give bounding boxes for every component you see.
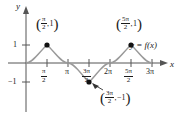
x-tick-label-3pi-over-2: 3π 2 bbox=[82, 67, 91, 84]
point-max-2-denominator: 2 bbox=[121, 24, 130, 31]
point-min-1-denominator: 2 bbox=[105, 98, 114, 105]
point-label-max-1: (π2,1) bbox=[36, 16, 59, 32]
x-tick-label-pi-over-2: π 2 bbox=[41, 67, 47, 84]
x-tick-pi-over-2-denominator: 2 bbox=[41, 77, 47, 84]
x-tick-label-5pi-over-2: 5π 2 bbox=[124, 67, 133, 84]
x-tick-label-pi: π bbox=[65, 68, 69, 76]
plot-canvas bbox=[0, 0, 180, 116]
x-tick-5pi-over-2-denominator: 2 bbox=[124, 77, 133, 84]
x-tick-label-2pi: 2π bbox=[104, 68, 112, 76]
sine-curve-figure: y x 1 −1 π 2 π 3π 2 2π 5π 2 3π (π2,1) (5… bbox=[0, 0, 180, 116]
y-tick-label-neg1: −1 bbox=[8, 78, 17, 86]
x-axis-label: x bbox=[170, 60, 174, 69]
close-paren-max-2: ) bbox=[137, 16, 142, 32]
function-label: y = f(x) bbox=[130, 41, 157, 50]
close-paren-min-1: ) bbox=[126, 90, 131, 106]
x-tick-3pi-over-2-denominator: 2 bbox=[82, 77, 91, 84]
y-axis bbox=[23, 6, 29, 112]
y-axis-label: y bbox=[16, 2, 20, 11]
point-label-min-1: (3π2,−1) bbox=[100, 90, 131, 106]
point-marker-max-1 bbox=[44, 42, 49, 47]
x-tick-label-3pi: 3π bbox=[146, 68, 154, 76]
point-label-max-2: (5π2,1) bbox=[116, 16, 142, 32]
point-min-1-yvalue: −1 bbox=[117, 93, 126, 102]
point-max-1-denominator: 2 bbox=[41, 24, 47, 31]
y-tick-label-1: 1 bbox=[13, 41, 17, 49]
close-paren-max-1: ) bbox=[54, 16, 59, 32]
